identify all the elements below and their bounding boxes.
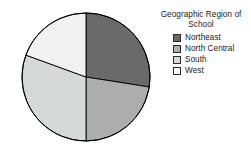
legend-label: Northeast <box>185 33 221 42</box>
legend-item: South <box>173 54 251 65</box>
legend-swatch-northeast <box>173 34 181 42</box>
legend-item: Northeast <box>173 32 251 43</box>
pie-chart-plot-area <box>18 9 154 145</box>
pie-slice-north-central <box>86 77 149 141</box>
pie-chart-svg <box>18 9 154 145</box>
legend-item: North Central <box>173 43 251 54</box>
legend-swatch-north-central <box>173 45 181 53</box>
legend-label: South <box>185 55 207 64</box>
chart-legend: Geographic Region of School NortheastNor… <box>153 10 251 76</box>
pie-slice-group <box>22 13 150 141</box>
legend-title: Geographic Region of School <box>153 10 251 30</box>
legend-swatch-west <box>173 67 181 75</box>
legend-item: West <box>173 65 251 76</box>
legend-swatch-south <box>173 56 181 64</box>
legend-item-list: NortheastNorth CentralSouthWest <box>153 32 251 76</box>
legend-label: West <box>185 66 204 75</box>
pie-chart-figure: Geographic Region of School NortheastNor… <box>0 0 251 145</box>
legend-label: North Central <box>185 44 234 53</box>
pie-slice-northeast <box>86 13 150 87</box>
